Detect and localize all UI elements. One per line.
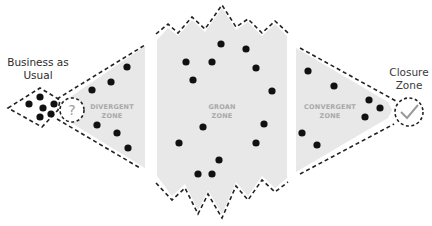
business-as-usual-label: Business as Usual	[2, 56, 74, 82]
divergent-zone-line1: DIVERGENT	[88, 103, 136, 112]
divergent-zone-label: DIVERGENT ZONE	[88, 103, 136, 121]
groan-zone-label: GROAN ZONE	[200, 103, 244, 121]
groan-zone-line2: ZONE	[200, 112, 244, 121]
question-icon: ?	[62, 101, 82, 119]
groan-zone-line1: GROAN	[200, 103, 244, 112]
convergent-zone-label: CONVERGENT ZONE	[300, 103, 360, 121]
convergent-zone-line2: ZONE	[300, 112, 360, 121]
closure-zone-line2: Zone	[382, 79, 432, 92]
closure-circle	[395, 98, 423, 126]
closure-zone-line1: Closure	[382, 66, 432, 79]
business-as-usual-line1: Business as	[2, 56, 74, 69]
business-as-usual-line2: Usual	[2, 69, 74, 82]
closure-zone-label: Closure Zone	[382, 66, 432, 92]
divergent-zone-line2: ZONE	[88, 112, 136, 121]
convergent-zone-line1: CONVERGENT	[300, 103, 360, 112]
business-as-usual-diamond	[8, 88, 60, 127]
business-as-usual-dots	[25, 93, 57, 120]
